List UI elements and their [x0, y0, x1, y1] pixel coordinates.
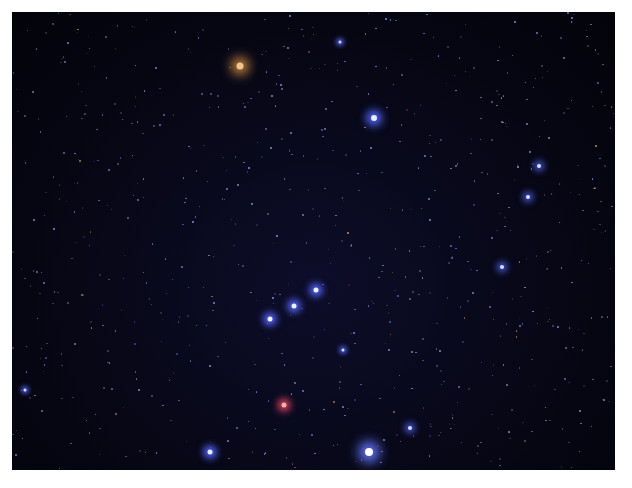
faint-star	[588, 38, 590, 40]
faint-star	[123, 278, 125, 280]
faint-star	[44, 364, 46, 366]
faint-star	[231, 219, 233, 221]
faint-star	[255, 428, 257, 430]
faint-star	[586, 30, 588, 32]
faint-star	[185, 198, 187, 200]
faint-star	[311, 434, 313, 436]
faint-star	[414, 113, 416, 115]
faint-star	[248, 167, 250, 169]
faint-star	[290, 315, 292, 317]
faint-star	[247, 171, 249, 173]
faint-star	[579, 194, 581, 196]
faint-star	[324, 128, 326, 130]
faint-star	[22, 438, 24, 440]
faint-star	[360, 150, 362, 152]
faint-star	[347, 408, 349, 410]
faint-star	[573, 14, 575, 16]
faint-star	[308, 51, 310, 53]
faint-star	[386, 107, 388, 109]
faint-star	[613, 113, 615, 115]
faint-star	[115, 413, 117, 415]
faint-star	[99, 274, 101, 276]
faint-star	[368, 305, 370, 307]
faint-star	[465, 24, 467, 26]
faint-star	[66, 116, 68, 118]
faint-star	[508, 207, 510, 209]
faint-star	[571, 100, 573, 102]
faint-star	[418, 167, 420, 169]
faint-star	[491, 237, 493, 239]
faint-star	[159, 124, 161, 126]
faint-star	[477, 445, 479, 447]
faint-star	[142, 133, 144, 135]
faint-star	[114, 103, 116, 105]
faint-star	[512, 298, 514, 300]
faint-star	[368, 13, 370, 15]
faint-star	[497, 193, 499, 195]
faint-star	[165, 258, 167, 260]
faint-star	[289, 15, 291, 17]
faint-star	[178, 400, 180, 402]
faint-star	[111, 388, 113, 390]
faint-star	[91, 327, 93, 329]
faint-star	[288, 284, 290, 286]
faint-star	[53, 176, 55, 178]
faint-star	[516, 336, 518, 338]
faint-star	[567, 108, 569, 110]
faint-star	[503, 95, 505, 97]
faint-star	[225, 342, 227, 344]
faint-star	[473, 67, 475, 69]
faint-star	[192, 221, 194, 223]
faint-star	[364, 127, 366, 129]
faint-star	[40, 131, 42, 133]
faint-star	[420, 104, 422, 106]
faint-star	[358, 190, 360, 192]
faint-star	[572, 347, 574, 349]
faint-star	[156, 452, 158, 454]
faint-star	[381, 271, 383, 273]
faint-star	[324, 188, 326, 190]
faint-star	[61, 353, 63, 355]
faint-star	[233, 245, 235, 247]
faint-star	[345, 154, 347, 156]
faint-star	[275, 106, 277, 108]
faint-star	[571, 21, 573, 23]
faint-star	[410, 59, 412, 61]
faint-star	[21, 268, 23, 270]
faint-star	[133, 195, 135, 197]
faint-star	[577, 165, 579, 167]
faint-star	[504, 217, 506, 219]
faint-star	[451, 257, 453, 259]
faint-star	[258, 91, 260, 93]
faint-star	[446, 83, 448, 85]
faint-star	[312, 357, 314, 359]
faint-star	[419, 270, 421, 272]
faint-star	[27, 30, 29, 32]
faint-star	[499, 213, 501, 215]
faint-star	[534, 385, 536, 387]
faint-star	[561, 466, 563, 468]
faint-star	[71, 258, 73, 260]
faint-star	[459, 236, 461, 238]
faint-star	[406, 109, 408, 111]
faint-star	[394, 387, 396, 389]
faint-star	[84, 113, 86, 115]
faint-star	[430, 156, 432, 158]
faint-star	[125, 456, 127, 458]
faint-star	[184, 202, 186, 204]
faint-star	[439, 246, 441, 248]
faint-star	[314, 453, 316, 455]
faint-star	[383, 439, 385, 441]
faint-star	[399, 375, 401, 377]
faint-star	[289, 189, 291, 191]
faint-star	[236, 427, 238, 429]
faint-star	[224, 199, 226, 201]
faint-star	[337, 444, 339, 446]
faint-star	[294, 467, 296, 469]
faint-star	[536, 32, 538, 34]
faint-star	[508, 431, 510, 433]
faint-star	[12, 347, 14, 349]
faint-star	[95, 414, 97, 416]
faint-star	[477, 453, 479, 455]
faint-star	[60, 62, 62, 64]
